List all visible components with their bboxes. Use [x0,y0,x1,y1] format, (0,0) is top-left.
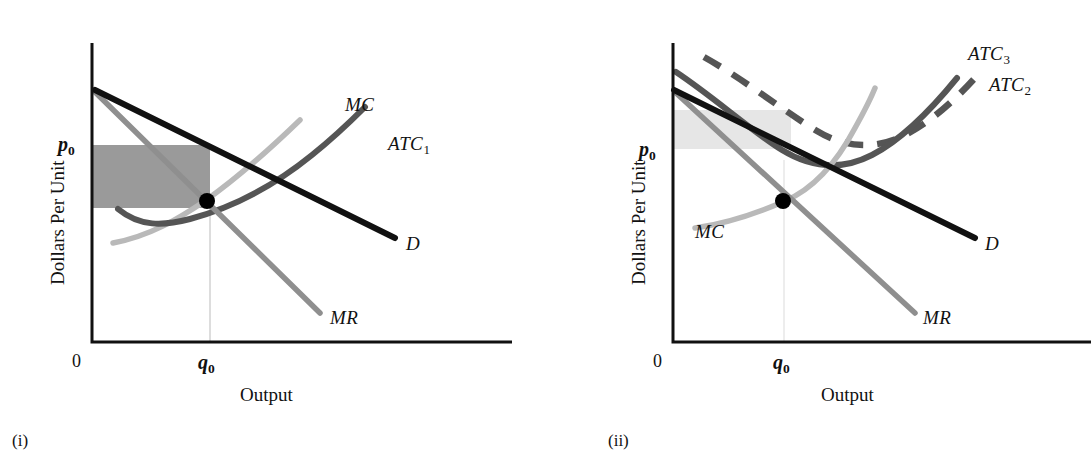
origin-label-i: 0 [72,352,81,370]
price-tick-subscript-i: 0 [68,143,75,158]
curve-label-atc3-ii-text: ATC [968,43,1003,64]
price-tick-symbol-ii: p [639,138,649,160]
curve-label-mr-ii-text: MR [923,307,951,328]
curve-label-demand-ii: D [985,234,999,253]
panel-ii: Dollars Per Unit p0 0 q0 Output MC ATC3 … [545,0,1091,474]
panel-ii-plot [545,0,1091,474]
y-axis-label-i: Dollars Per Unit [48,160,67,285]
curve-label-atc2-ii-sub: 2 [1024,83,1031,98]
curve-label-mc-ii: MC [695,222,724,241]
curve-label-atc2-ii: ATC2 [989,75,1031,97]
y-axis-label-ii: Dollars Per Unit [629,160,648,285]
price-tick-label-ii: p0 [639,139,656,163]
price-tick-symbol-i: p [58,133,68,155]
curve-label-mc-i: MC [345,95,374,114]
curve-label-mr-ii: MR [923,308,951,327]
price-tick-subscript-ii: 0 [649,148,656,163]
curve-label-atc1-i: ATC1 [388,134,430,156]
x-axis-label-i: Output [240,385,293,404]
curve-label-atc1-i-text: ATC [388,133,423,154]
curve-label-demand-ii-text: D [985,233,999,254]
quantity-tick-label-i: q0 [198,352,215,376]
panel-tag-i: (i) [12,432,28,449]
curve-mr [675,92,915,313]
figure-root: Dollars Per Unit p0 0 q0 Output MC ATC1 … [0,0,1091,474]
equilibrium-point [199,193,215,209]
panel-i: Dollars Per Unit p0 0 q0 Output MC ATC1 … [0,0,545,474]
quantity-tick-label-ii: q0 [773,352,790,376]
origin-label-ii: 0 [653,352,662,370]
curve-label-mr-i-text: MR [330,307,358,328]
curve-label-mc-ii-text: MC [695,221,724,242]
curve-label-atc3-ii: ATC3 [968,44,1010,66]
curve-label-demand-i-text: D [406,233,420,254]
curve-label-atc2-ii-text: ATC [989,74,1024,95]
curve-label-demand-i: D [406,234,420,253]
curve-label-mr-i: MR [330,308,358,327]
quantity-tick-subscript-ii: 0 [783,361,790,376]
curve-label-mc-i-text: MC [345,94,374,115]
price-tick-label-i: p0 [58,134,75,158]
equilibrium-point [775,193,791,209]
curve-label-atc1-i-sub: 1 [423,142,430,157]
quantity-tick-symbol-ii: q [773,351,783,373]
quantity-tick-subscript-i: 0 [208,361,215,376]
x-axis-label-ii: Output [821,385,874,404]
panel-tag-ii: (ii) [608,432,629,449]
profit-rectangle [93,145,210,208]
quantity-tick-symbol-i: q [198,351,208,373]
curve-label-atc3-ii-sub: 3 [1003,52,1010,67]
